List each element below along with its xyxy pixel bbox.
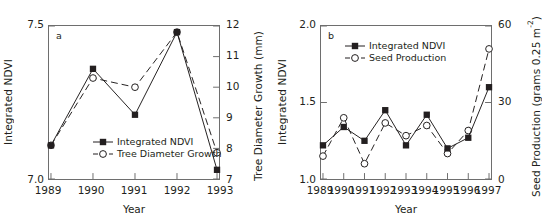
panel-a-legend-label-ndvi: Integrated NDVI [117, 136, 193, 148]
panel-a-xtick-0: 1989 [28, 184, 68, 196]
panel-b-xtick-8: 1997 [470, 184, 506, 196]
panel-b-legend-label-ndvi: Integrated NDVI [369, 40, 445, 52]
panel-b-ylabel-right-post: ) [530, 15, 542, 19]
panel-b-legend: Integrated NDVI Seed Production [345, 40, 446, 64]
panel-a: Integrated NDVI Tree Diameter Growth (mm… [0, 0, 276, 224]
panel-b-ytick-right-0: 60 [498, 18, 522, 30]
filled-square-icon [93, 137, 113, 147]
panel-a-legend: Integrated NDVI Tree Diameter Growth [93, 136, 222, 160]
panel-a-legend-label-tree-diameter: Tree Diameter Growth [117, 148, 222, 160]
panel-a-legend-item-ndvi: Integrated NDVI [93, 136, 222, 148]
panel-a-plot-area: a [48, 25, 220, 180]
panel-b: Integrated NDVI Seed Production (grams 0… [276, 0, 552, 224]
panel-a-xtick-4: 1993 [200, 184, 240, 196]
panel-a-xtick-2: 1991 [114, 184, 154, 196]
filled-square-icon [345, 41, 365, 51]
open-circle-icon [345, 53, 365, 63]
panel-b-legend-label-seed: Seed Production [369, 52, 446, 64]
panel-a-xlabel: Year [84, 203, 184, 215]
panel-a-xtick-1: 1990 [71, 184, 111, 196]
panel-b-legend-item-ndvi: Integrated NDVI [345, 40, 446, 52]
panel-a-ylabel-right: Tree Diameter Growth (mm) [252, 18, 266, 194]
panel-b-legend-item-seed: Seed Production [345, 52, 446, 64]
panel-b-ylabel-right-exponent: -2 [526, 20, 535, 28]
figure-container: Integrated NDVI Tree Diameter Growth (mm… [0, 0, 552, 224]
panel-a-ytick-right-0: 12 [226, 18, 250, 30]
panel-a-ytick-left-0: 7.5 [14, 18, 44, 30]
panel-b-plot-area: b [320, 25, 492, 180]
panel-b-xlabel: Year [356, 203, 456, 215]
panel-a-ytick-right-3: 9 [226, 111, 250, 123]
panel-a-legend-item-tree-diameter: Tree Diameter Growth [93, 148, 222, 160]
panel-b-ytick-left-0: 2.0 [286, 18, 316, 30]
panel-a-xtick-3: 1992 [157, 184, 197, 196]
panel-a-ytick-right-2: 10 [226, 80, 250, 92]
panel-a-ylabel-left: Integrated NDVI [2, 42, 16, 162]
panel-b-ytick-right-1: 30 [498, 95, 522, 107]
panel-a-ytick-right-1: 11 [226, 49, 250, 61]
panel-a-ytick-right-4: 8 [226, 142, 250, 154]
panel-b-ylabel-right-pre: Seed Production (grams 0.25 m [530, 27, 542, 196]
panel-b-ylabel-right: Seed Production (grams 0.25 m-2) [526, 6, 540, 206]
open-circle-icon [93, 149, 113, 159]
panel-b-ytick-left-1: 1.5 [286, 95, 316, 107]
panel-a-series-tree-diameter-line [51, 32, 217, 153]
